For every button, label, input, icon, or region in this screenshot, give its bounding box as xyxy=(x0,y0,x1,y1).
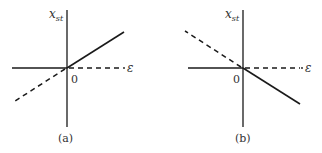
panel-a-y-axis-label: xst xyxy=(49,7,64,23)
panel-b-solid-sloped-line xyxy=(243,68,300,104)
panel-a-x-axis-label: ε xyxy=(127,61,133,75)
panel-a: xst ε 0 (a) xyxy=(12,7,133,145)
panel-a-axis-end-dot xyxy=(123,67,125,69)
panel-b-axis-end-dot xyxy=(301,67,303,69)
panel-b-x-axis-label: ε xyxy=(305,61,311,75)
diagram-canvas: xst ε 0 (a) xst ε 0 (b) xyxy=(0,0,322,153)
panel-a-solid-sloped-line xyxy=(67,32,124,68)
panel-b-dashed-extension xyxy=(185,31,241,67)
panel-b-caption: (b) xyxy=(235,132,251,145)
panel-b: xst ε 0 (b) xyxy=(185,7,311,145)
panel-a-origin-label: 0 xyxy=(71,73,78,86)
panel-b-origin-label: 0 xyxy=(233,73,240,86)
panel-a-caption: (a) xyxy=(58,132,73,145)
panel-b-y-axis-label: xst xyxy=(225,7,240,23)
panel-a-dashed-extension xyxy=(15,69,65,101)
